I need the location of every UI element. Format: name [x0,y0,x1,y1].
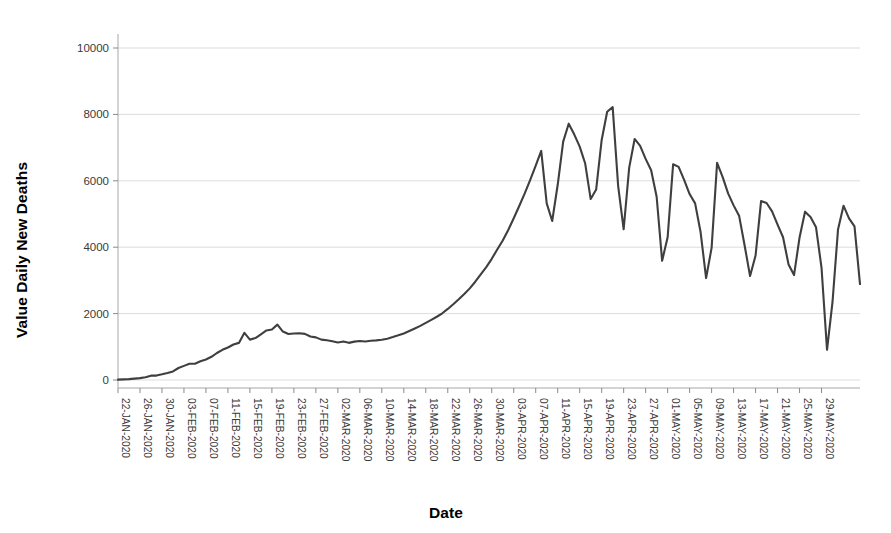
x-tick-label: 30-JAN-2020 [164,398,175,458]
x-tick-label: 18-MAR-2020 [428,398,439,462]
x-tick-label: 27-FEB-2020 [318,398,329,459]
x-tick-labels: 22-JAN-202026-JAN-202030-JAN-202003-FEB-… [118,388,835,462]
x-tick-label: 19-FEB-2020 [274,398,285,459]
x-tick-label: 15-FEB-2020 [252,398,263,459]
data-series-daily-new-deaths [118,107,860,380]
y-tick-label: 10000 [77,42,109,54]
x-tick-label: 02-MAR-2020 [340,398,351,462]
x-tick-label: 29-MAY-2020 [824,398,835,459]
x-tick-label: 21-MAY-2020 [780,398,791,459]
x-tick-label: 17-MAY-2020 [758,398,769,459]
x-tick-label: 26-JAN-2020 [142,398,153,458]
x-tick-label: 23-APR-2020 [626,398,637,460]
x-tick-label: 07-FEB-2020 [208,398,219,459]
y-axis-title: Value Daily New Deaths [13,162,30,338]
x-tick-label: 22-JAN-2020 [120,398,131,458]
x-tick-label: 27-APR-2020 [648,398,659,460]
x-tick-label: 23-FEB-2020 [296,398,307,459]
chart-container: 0200040006000800010000 22-JAN-202026-JAN… [0,0,891,533]
y-tick-label: 2000 [83,308,109,320]
y-tick-labels: 0200040006000800010000 [77,42,118,386]
line-chart: 0200040006000800010000 22-JAN-202026-JAN… [0,0,891,533]
y-tick-label: 0 [103,374,109,386]
x-axis-title: Date [429,504,463,521]
y-tick-label: 6000 [83,175,109,187]
x-tick-label: 11-APR-2020 [560,398,571,459]
grid-lines [118,48,860,380]
x-tick-label: 07-APR-2020 [538,398,549,460]
y-tick-label: 4000 [83,241,109,253]
x-tick-label: 26-MAR-2020 [472,398,483,462]
x-tick-label: 05-MAY-2020 [692,398,703,459]
x-tick-label: 14-MAR-2020 [406,398,417,462]
x-tick-label: 03-APR-2020 [516,398,527,460]
x-tick-label: 30-MAR-2020 [494,398,505,462]
x-tick-label: 09-MAY-2020 [714,398,725,459]
x-tick-label: 13-MAY-2020 [736,398,747,459]
x-tick-label: 06-MAR-2020 [362,398,373,462]
x-tick-label: 11-FEB-2020 [230,398,241,458]
x-tick-label: 15-APR-2020 [582,398,593,460]
series-line-path [118,107,860,380]
x-tick-label: 10-MAR-2020 [384,398,395,462]
y-tick-label: 8000 [83,108,109,120]
x-tick-label: 22-MAR-2020 [450,398,461,462]
x-tick-label: 01-MAY-2020 [670,398,681,459]
x-tick-label: 25-MAY-2020 [802,398,813,459]
x-tick-label: 03-FEB-2020 [186,398,197,459]
x-tick-label: 19-APR-2020 [604,398,615,460]
